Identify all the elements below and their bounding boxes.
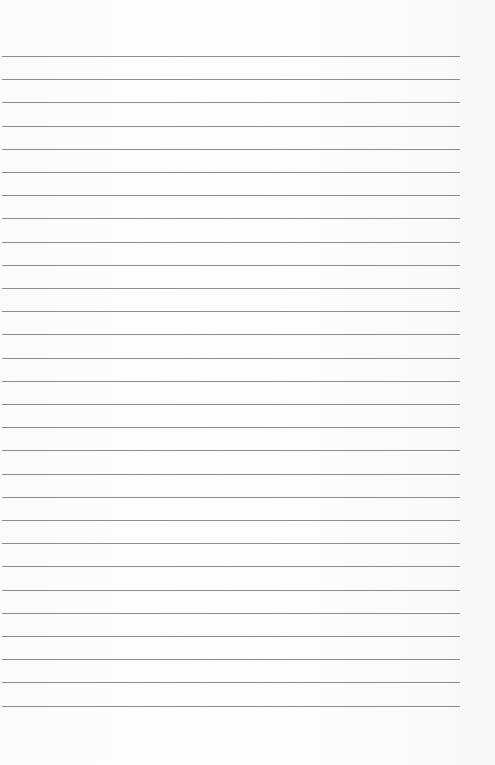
ruled-line [2,427,460,428]
lined-notebook-page [0,0,495,765]
ruled-line [2,636,460,637]
ruled-line [2,265,460,266]
ruled-line [2,450,460,451]
ruled-line [2,126,460,127]
ruled-line [2,311,460,312]
ruled-line [2,242,460,243]
ruled-line [2,288,460,289]
ruled-line [2,56,460,57]
ruled-line [2,149,460,150]
ruled-line [2,706,460,707]
ruled-line [2,218,460,219]
ruled-line [2,381,460,382]
ruled-line [2,659,460,660]
ruled-line [2,358,460,359]
ruled-line [2,497,460,498]
ruled-line [2,334,460,335]
ruled-line [2,590,460,591]
ruled-line [2,474,460,475]
ruled-line [2,566,460,567]
ruled-line [2,195,460,196]
ruled-line [2,520,460,521]
ruled-line [2,172,460,173]
ruled-line [2,102,460,103]
ruled-line [2,79,460,80]
ruled-line [2,404,460,405]
ruled-line [2,682,460,683]
ruled-line [2,543,460,544]
ruled-line [2,613,460,614]
